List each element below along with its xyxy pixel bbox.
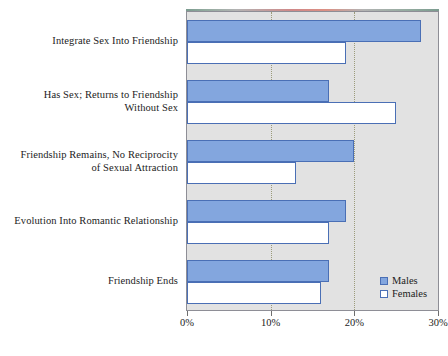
bar-females-4 [187, 282, 321, 304]
category-label-line: of Sexual Attraction [0, 161, 178, 174]
bar-females-3 [187, 222, 329, 244]
legend: MalesFemales [376, 271, 432, 303]
legend-item-males[interactable]: Males [380, 274, 427, 287]
tick-label-0pct: 0% [180, 317, 194, 328]
tick-label-20pct: 20% [345, 317, 364, 328]
tick-mark-30pct [438, 311, 439, 316]
value-axis: 0%10%20%30% [186, 311, 439, 337]
bar-females-2 [187, 162, 296, 184]
bar-males-4 [187, 260, 329, 282]
tick-mark-20pct [354, 311, 355, 316]
category-label-line: Friendship Ends [0, 275, 178, 288]
bar-males-0 [187, 20, 421, 42]
tick-mark-0pct [187, 311, 188, 316]
bar-males-1 [187, 80, 329, 102]
legend-swatch-females-icon [380, 290, 388, 298]
category-label-line: Without Sex [0, 101, 178, 114]
category-label-1: Has Sex; Returns to FriendshipWithout Se… [0, 89, 178, 114]
legend-swatch-males-icon [380, 277, 388, 285]
category-label-4: Friendship Ends [0, 275, 178, 288]
category-label-line: Integrate Sex Into Friendship [0, 35, 178, 48]
tick-mark-10pct [271, 311, 272, 316]
legend-label: Males [392, 274, 418, 287]
bar-females-0 [187, 42, 346, 64]
category-label-2: Friendship Remains, No Reciprocityof Sex… [0, 149, 178, 174]
plot-area: MalesFemales [186, 11, 439, 311]
category-label-0: Integrate Sex Into Friendship [0, 35, 178, 48]
category-label-line: Has Sex; Returns to Friendship [0, 89, 178, 102]
tick-label-30pct: 30% [428, 317, 447, 328]
category-label-line: Friendship Remains, No Reciprocity [0, 149, 178, 162]
legend-item-females[interactable]: Females [380, 287, 427, 300]
gridline-20pct [354, 12, 355, 310]
bar-males-2 [187, 140, 354, 162]
bar-chart: Integrate Sex Into FriendshipHas Sex; Re… [0, 0, 448, 356]
tick-label-10pct: 10% [261, 317, 280, 328]
bar-males-3 [187, 200, 346, 222]
legend-label: Females [392, 287, 427, 300]
category-label-line: Evolution Into Romantic Relationship [0, 215, 178, 228]
category-axis: Integrate Sex Into FriendshipHas Sex; Re… [0, 10, 183, 310]
category-label-3: Evolution Into Romantic Relationship [0, 215, 178, 228]
bar-females-1 [187, 102, 396, 124]
